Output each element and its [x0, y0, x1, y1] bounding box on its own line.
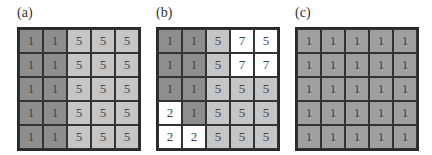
grid-cell: 1	[393, 53, 417, 77]
grid-cell: 1	[182, 53, 206, 77]
grid-cell: 1	[158, 77, 182, 101]
grid-cell: 1	[393, 77, 417, 101]
panel-label-b: (b)	[156, 5, 172, 21]
grid-cell: 1	[19, 53, 43, 77]
grid-cell: 5	[206, 77, 230, 101]
grid-cell: 1	[393, 125, 417, 149]
grid-cell: 1	[321, 53, 345, 77]
grid-cell: 1	[297, 77, 321, 101]
grid-cell: 5	[115, 29, 139, 53]
grid-cell: 1	[158, 29, 182, 53]
grid-cell: 1	[297, 101, 321, 125]
grid-cell: 1	[321, 101, 345, 125]
grid-cell: 2	[158, 101, 182, 125]
grid-cell: 1	[297, 53, 321, 77]
grid-cell: 1	[345, 101, 369, 125]
grid-cell: 1	[393, 29, 417, 53]
grid-cell: 1	[43, 125, 67, 149]
grid-cell: 5	[115, 125, 139, 149]
grid-cell: 1	[369, 101, 393, 125]
grid-cell: 1	[182, 77, 206, 101]
grid-cell: 5	[206, 125, 230, 149]
grid-cell: 5	[67, 125, 91, 149]
grid-cell: 5	[115, 53, 139, 77]
grid-cell: 1	[345, 77, 369, 101]
grid-cell: 5	[115, 77, 139, 101]
grid-cell: 5	[254, 29, 278, 53]
panel-label-a: (a)	[17, 5, 33, 21]
grid-cell: 1	[297, 125, 321, 149]
grid-cell: 1	[182, 29, 206, 53]
grid-cell: 1	[43, 101, 67, 125]
grid-a: 1155511555115551155511555	[17, 27, 141, 151]
grid-cell: 1	[369, 125, 393, 149]
grid-cell: 2	[182, 125, 206, 149]
grid-cell: 5	[230, 125, 254, 149]
grid-cell: 1	[158, 53, 182, 77]
panel-label-c: (c)	[295, 5, 311, 21]
grid-cell: 5	[254, 77, 278, 101]
grid-cell: 1	[393, 101, 417, 125]
grid-cell: 2	[158, 125, 182, 149]
grid-cell: 1	[345, 53, 369, 77]
grid-cell: 5	[67, 29, 91, 53]
grid-cell: 5	[91, 101, 115, 125]
grid-cell: 5	[206, 53, 230, 77]
grid-cell: 7	[254, 53, 278, 77]
grid-cell: 5	[230, 101, 254, 125]
grid-cell: 1	[43, 77, 67, 101]
grid-cell: 5	[67, 53, 91, 77]
grid-cell: 5	[91, 53, 115, 77]
grid-cell: 1	[345, 125, 369, 149]
grid-cell: 5	[230, 77, 254, 101]
grid-cell: 5	[67, 101, 91, 125]
grid-cell: 1	[297, 29, 321, 53]
grid-cell: 1	[43, 29, 67, 53]
grid-cell: 1	[321, 125, 345, 149]
grid-b: 1157511577115552155522555	[156, 27, 280, 151]
grid-cell: 7	[230, 29, 254, 53]
grid-cell: 1	[43, 53, 67, 77]
grid-cell: 1	[321, 29, 345, 53]
grid-cell: 5	[91, 125, 115, 149]
grid-cell: 1	[182, 101, 206, 125]
grid-cell: 1	[19, 77, 43, 101]
grid-cell: 1	[19, 101, 43, 125]
grid-cell: 1	[369, 77, 393, 101]
grid-cell: 5	[206, 101, 230, 125]
grid-c: 1111111111111111111111111	[295, 27, 419, 151]
grid-cell: 1	[345, 29, 369, 53]
grid-cell: 1	[321, 77, 345, 101]
grid-cell: 5	[91, 29, 115, 53]
grid-cell: 5	[115, 101, 139, 125]
grid-cell: 5	[206, 29, 230, 53]
grid-cell: 5	[254, 101, 278, 125]
grid-cell: 5	[254, 125, 278, 149]
grid-cell: 1	[19, 125, 43, 149]
grid-cell: 1	[19, 29, 43, 53]
grid-cell: 1	[369, 29, 393, 53]
grid-cell: 5	[67, 77, 91, 101]
grid-cell: 7	[230, 53, 254, 77]
grid-cell: 1	[369, 53, 393, 77]
grid-cell: 5	[91, 77, 115, 101]
